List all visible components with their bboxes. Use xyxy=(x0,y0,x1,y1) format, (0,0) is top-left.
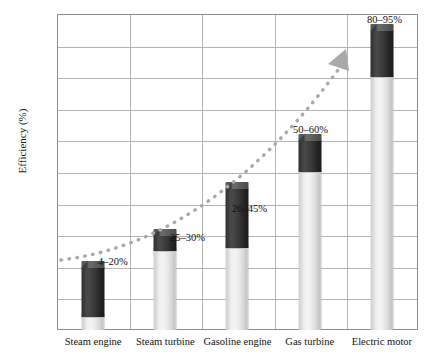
bar-top-cap xyxy=(226,182,249,189)
value-label-electric-motor: 80–95% xyxy=(367,14,402,25)
bar-range-gas-turbine xyxy=(298,140,321,172)
x-label-gasoline-engine: Gasoline engine xyxy=(201,336,273,347)
value-label-steam-engine: 4–20% xyxy=(98,256,128,267)
bar-top-cap xyxy=(298,134,321,141)
bar-base-gas-turbine xyxy=(298,172,321,330)
x-axis-category-labels: Steam engine Steam turbine Gasoline engi… xyxy=(57,336,418,347)
efficiency-bar-chart: Efficiency (%) 0 10 20 30 40 50 60 70 80… xyxy=(0,0,430,364)
bar-base-steam-turbine xyxy=(154,251,177,330)
value-label-gasoline-engine: 26–45% xyxy=(232,203,267,214)
bar-electric-motor xyxy=(346,14,418,330)
bar-range-electric-motor xyxy=(370,30,393,77)
x-label-gas-turbine: Gas turbine xyxy=(274,336,346,347)
x-label-steam-turbine: Steam turbine xyxy=(129,336,201,347)
bar-range-gasoline-engine xyxy=(226,188,249,248)
bar-gas-turbine xyxy=(274,14,346,330)
bar-base-electric-motor xyxy=(370,77,393,330)
bar-base-steam-engine xyxy=(82,317,105,330)
bar-steam-engine xyxy=(57,14,129,330)
bar-gasoline-engine xyxy=(201,14,273,330)
bar-base-gasoline-engine xyxy=(226,248,249,330)
bar-range-steam-engine xyxy=(82,267,105,318)
value-label-steam-turbine: 25–30% xyxy=(170,232,205,243)
bar-steam-turbine xyxy=(129,14,201,330)
x-label-electric-motor: Electric motor xyxy=(346,336,418,347)
value-label-gas-turbine: 50–60% xyxy=(293,124,328,135)
bar-group xyxy=(57,14,418,330)
x-label-steam-engine: Steam engine xyxy=(57,336,129,347)
